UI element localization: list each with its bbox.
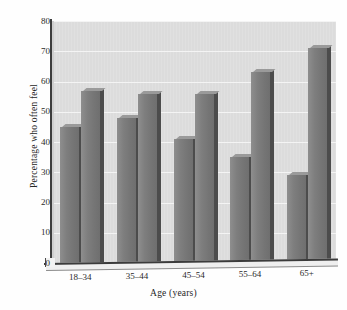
bar-side-face <box>100 88 104 263</box>
x-axis-tick-label: 45–54 <box>182 270 205 280</box>
bar-front-face <box>195 94 214 263</box>
bar-side-face <box>214 91 218 263</box>
bar <box>251 72 270 263</box>
x-axis-tick-label: 35–44 <box>126 271 149 281</box>
bar <box>81 91 100 263</box>
bar <box>230 157 249 263</box>
bar-side-face <box>270 69 274 263</box>
bar-front-face <box>117 118 136 263</box>
bar-front-face <box>60 127 79 263</box>
y-axis-tick-label: 80 <box>30 17 50 26</box>
bar-top-face <box>83 88 106 91</box>
bar-front-face <box>308 48 327 263</box>
bar-front-face <box>138 94 157 263</box>
bar <box>287 175 306 263</box>
bar <box>308 48 327 263</box>
x-axis-ticks: 18–3435–4445–5455–6465+ <box>52 272 342 288</box>
bar-front-face <box>287 175 306 263</box>
bar <box>60 127 79 263</box>
bar-front-face <box>81 91 100 263</box>
bar-chart: 01020304050607080 18–3435–4445–5455–6465… <box>0 0 347 310</box>
y-axis-title: Percentage who often feel <box>29 41 39 231</box>
bar-top-face <box>310 45 333 48</box>
x-axis-title: Age (years) <box>0 288 347 298</box>
x-axis-tick-label: 65+ <box>300 268 314 278</box>
bar-front-face <box>251 72 270 263</box>
bar <box>174 139 193 263</box>
bar <box>117 118 136 263</box>
bar-top-face <box>197 91 220 94</box>
y-axis-line <box>50 19 52 265</box>
bar-series-container <box>53 21 336 263</box>
x-axis-tick-label: 18–34 <box>69 272 92 282</box>
bar-top-face <box>140 91 163 94</box>
y-axis-tick-label: 0 <box>30 259 50 268</box>
bar <box>195 94 214 263</box>
bar-side-face <box>157 91 161 263</box>
bar <box>138 94 157 263</box>
bar-front-face <box>174 139 193 263</box>
x-axis-tick-label: 55–64 <box>239 269 262 279</box>
bar-side-face <box>327 45 331 263</box>
bar-front-face <box>230 157 249 263</box>
